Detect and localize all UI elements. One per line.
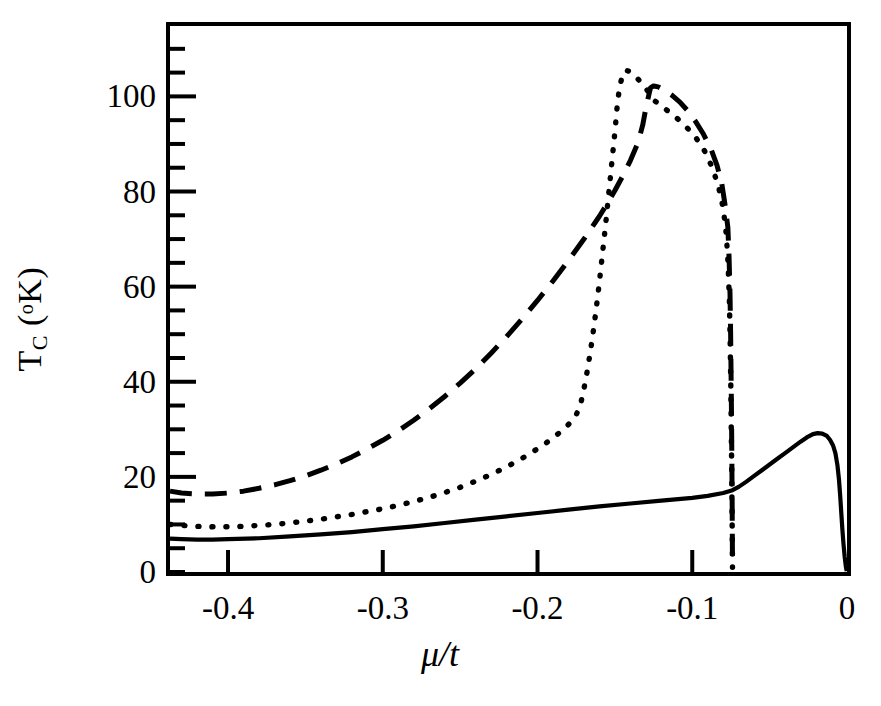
y-axis-label-paren-open: ( xyxy=(11,314,48,335)
y-axis-label: TC (oK) xyxy=(13,239,51,399)
figure-panel: TC (oK) μ/t 020406080100 -0.4-0.3-0.2-0.… xyxy=(0,0,881,706)
data-series-layer xyxy=(170,70,847,571)
dotted-curve xyxy=(170,70,732,567)
y-axis-label-unit: K) xyxy=(11,267,48,304)
x-tick-label: -0.2 xyxy=(511,590,563,627)
y-axis-label-symbol: T xyxy=(11,350,48,371)
x-tick-label: -0.4 xyxy=(202,590,254,627)
plot-frame xyxy=(168,24,849,574)
x-axis-label: μ/t xyxy=(421,636,459,672)
y-tick-label: 40 xyxy=(123,363,156,400)
degree-icon: o xyxy=(15,304,37,315)
x-tick-label: 0 xyxy=(839,590,856,627)
y-axis-label-subscript: C xyxy=(27,335,52,350)
y-tick-label: 20 xyxy=(123,458,156,495)
y-tick-label: 0 xyxy=(140,554,157,591)
dashed-curve xyxy=(170,86,732,565)
x-tick-label: -0.1 xyxy=(666,590,718,627)
solid-curve xyxy=(170,433,847,571)
y-tick-label: 60 xyxy=(123,268,156,305)
x-tick-label: -0.3 xyxy=(357,590,409,627)
y-tick-label: 80 xyxy=(123,173,156,210)
x-axis-major-ticks xyxy=(228,550,692,572)
y-tick-label: 100 xyxy=(107,78,157,115)
axes-frame xyxy=(168,24,849,574)
y-axis-major-ticks xyxy=(170,96,196,476)
